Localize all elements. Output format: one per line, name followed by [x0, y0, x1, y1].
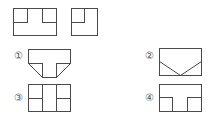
option-2-label: ②: [145, 50, 154, 61]
front-view-right-notch: [43, 9, 57, 23]
option-2[interactable]: ②: [145, 49, 202, 76]
front-view-left-notch: [14, 9, 28, 23]
option-1-bottom: [29, 64, 71, 78]
option-2-v-lines: [160, 62, 202, 76]
given-view-front: [14, 9, 57, 36]
three-view-diagram: ① ② ③ ④: [0, 0, 208, 124]
option-2-outline: [160, 49, 202, 76]
given-view-side: [72, 9, 98, 36]
option-1-top: [29, 50, 71, 64]
side-view-notch: [72, 9, 85, 23]
option-1[interactable]: ①: [14, 50, 71, 78]
option-4-left-inner: [160, 98, 173, 112]
option-4-right-inner: [188, 98, 202, 112]
option-3[interactable]: ③: [14, 85, 71, 112]
option-1-label: ①: [14, 50, 23, 61]
option-4[interactable]: ④: [145, 85, 202, 112]
option-3-label: ③: [14, 92, 23, 103]
option-4-label: ④: [145, 92, 154, 103]
